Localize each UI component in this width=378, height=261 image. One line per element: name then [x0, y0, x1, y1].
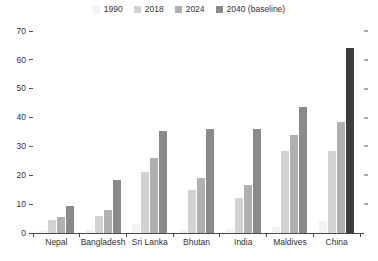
y-axis-right-tick-mark	[364, 88, 368, 89]
bar[interactable]	[197, 178, 205, 233]
bar[interactable]	[328, 151, 336, 233]
chart-legend: 1990201820242040 (baseline)	[0, 5, 378, 14]
y-axis-right-tick-mark	[364, 117, 368, 118]
bar-group	[80, 31, 127, 233]
bar[interactable]	[159, 131, 167, 233]
bar-group	[33, 31, 80, 233]
category-label-india: India	[220, 238, 267, 247]
y-axis-tick: 40	[17, 113, 33, 123]
y-axis-tick-label: 70	[17, 27, 26, 36]
y-axis-right-tick-mark	[364, 31, 368, 32]
bar-group	[220, 31, 267, 233]
category-tick-mark	[173, 233, 174, 237]
category-tick-mark	[219, 233, 220, 237]
bar[interactable]	[95, 216, 103, 233]
legend-item-label: 2018	[145, 5, 164, 14]
y-axis-tick-label: 60	[17, 56, 26, 65]
bar[interactable]	[299, 107, 307, 233]
bar[interactable]	[188, 190, 196, 233]
bar[interactable]	[141, 172, 149, 233]
bar[interactable]	[290, 135, 298, 233]
y-axis-tick-label: 20	[17, 171, 26, 180]
category-tick-mark	[126, 233, 127, 237]
bar[interactable]	[346, 48, 354, 233]
bar[interactable]	[253, 129, 261, 233]
category-label-maldives: Maldives	[267, 238, 314, 247]
plot-area	[33, 31, 360, 233]
category-tick-mark	[33, 233, 34, 237]
bar-group	[313, 31, 360, 233]
category-tick-mark	[313, 233, 314, 237]
legend-swatch-icon	[216, 6, 223, 13]
bar[interactable]	[57, 217, 65, 233]
bar-group	[126, 31, 173, 233]
y-axis: 706050403020100	[0, 31, 33, 233]
legend-item[interactable]: 1990	[93, 5, 123, 14]
y-axis-right-tick-mark	[364, 146, 368, 147]
y-axis-tick: 10	[17, 199, 33, 209]
bar[interactable]	[206, 129, 214, 233]
y-axis-right-tick-mark	[364, 175, 368, 176]
y-axis-tick-label: 0	[21, 229, 26, 238]
y-axis-tick: 50	[17, 84, 33, 94]
category-label-bangladesh: Bangladesh	[80, 238, 127, 247]
bar-groups	[33, 31, 360, 233]
category-labels: NepalBangladeshSri LankaBhutanIndiaMaldi…	[33, 238, 360, 247]
y-axis-tick: 70	[17, 26, 33, 36]
legend-item[interactable]: 2040 (baseline)	[216, 5, 286, 14]
bar[interactable]	[235, 198, 243, 233]
bar[interactable]	[66, 206, 74, 233]
y-axis-tick: 60	[17, 55, 33, 65]
bar-group	[173, 31, 220, 233]
bar[interactable]	[150, 158, 158, 233]
bar-group	[267, 31, 314, 233]
category-tick-mark	[266, 233, 267, 237]
category-tick-mark	[360, 233, 361, 237]
category-label-nepal: Nepal	[33, 238, 80, 247]
y-axis-right-tick-mark	[364, 204, 368, 205]
category-label-sri-lanka: Sri Lanka	[126, 238, 173, 247]
legend-item-label: 2040 (baseline)	[227, 5, 286, 14]
bar[interactable]	[113, 180, 121, 233]
y-axis-right-ticks	[360, 31, 370, 233]
y-axis-right-tick-mark	[364, 59, 368, 60]
y-axis-tick-label: 10	[17, 200, 26, 209]
bar[interactable]	[319, 221, 327, 233]
legend-item-label: 2024	[186, 5, 205, 14]
bar-chart: 1990201820242040 (baseline) 706050403020…	[0, 0, 378, 261]
legend-item-label: 1990	[104, 5, 123, 14]
bar[interactable]	[104, 210, 112, 233]
y-axis-tick-label: 50	[17, 84, 26, 93]
legend-swatch-icon	[175, 6, 182, 13]
y-axis-tick: 30	[17, 141, 33, 151]
bar[interactable]	[337, 122, 345, 233]
category-label-china: China	[313, 238, 360, 247]
bar[interactable]	[281, 151, 289, 233]
y-axis-tick-label: 30	[17, 142, 26, 151]
bar[interactable]	[132, 224, 140, 233]
legend-swatch-icon	[93, 6, 100, 13]
legend-item[interactable]: 2018	[134, 5, 164, 14]
y-axis-tick: 20	[17, 170, 33, 180]
category-label-bhutan: Bhutan	[173, 238, 220, 247]
legend-swatch-icon	[134, 6, 141, 13]
y-axis-tick-label: 40	[17, 113, 26, 122]
bar[interactable]	[48, 220, 56, 233]
legend-item[interactable]: 2024	[175, 5, 205, 14]
bar[interactable]	[244, 185, 252, 233]
